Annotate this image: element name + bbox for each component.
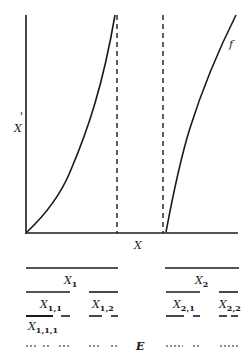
- limit-set-label: E: [135, 340, 145, 353]
- y-axis-label: X: [13, 122, 23, 135]
- label-x12: X1,2: [91, 298, 114, 313]
- label-x2: X2: [194, 274, 208, 289]
- label-x11: X1,1: [39, 298, 62, 313]
- function-curve-left-branch: [27, 15, 115, 232]
- cantor-construction-diagram: X ' X f X1 X2 X1,1 X1,2 X2,1 X2,2 X1,1,1…: [0, 0, 252, 363]
- label-x22: X2,2: [218, 298, 241, 313]
- label-x21: X2,1: [172, 298, 195, 313]
- y-axis-label-prime: ': [20, 110, 23, 123]
- function-curve-right-branch: [166, 15, 236, 232]
- label-x1: X1: [63, 274, 77, 289]
- label-x111: X1,1,1: [27, 320, 58, 335]
- x-axis-label: X: [133, 239, 143, 252]
- function-label: f: [228, 38, 235, 51]
